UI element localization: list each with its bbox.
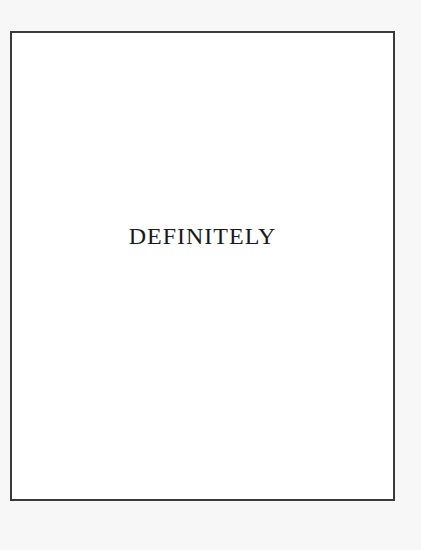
page-border-frame: DEFINITELY: [10, 31, 395, 501]
centered-word: DEFINITELY: [12, 223, 393, 250]
